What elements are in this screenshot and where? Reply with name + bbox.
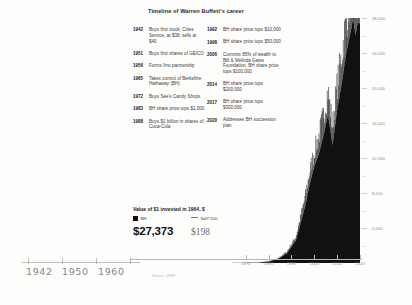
- timeline-year: 1972: [133, 94, 149, 100]
- y-tick-mark-minor: [362, 141, 365, 142]
- handwritten-tick: [62, 258, 63, 264]
- y-tick-mark-minor: [362, 176, 365, 177]
- timeline-year: 1998: [207, 39, 223, 45]
- legend-item-bh: BH: [133, 216, 191, 221]
- timeline-year: 1965: [133, 76, 149, 88]
- timeline-year: 2017: [207, 99, 223, 111]
- x-tick-mark: [337, 255, 338, 259]
- infographic-page: Timeline of Warren Buffett's career 1942…: [0, 0, 412, 305]
- timeline-entry: 1951 Buys first shares of GEICO: [133, 51, 205, 57]
- y-tick-mark-minor: [362, 246, 365, 247]
- x-tick-label: 2010: [332, 261, 342, 266]
- timeline-year: 1942: [133, 27, 149, 44]
- x-tick-mark: [291, 255, 292, 259]
- y-tick-mark: [362, 193, 367, 194]
- handwritten-tick: [96, 258, 97, 264]
- timeline-text: Forms first partnership: [149, 63, 194, 69]
- timeline-entry: 1965 Takes control of Berkshire Hathaway…: [133, 76, 205, 88]
- y-tick-label: 12,000: [372, 156, 385, 161]
- timeline-text: Buys first shares of GEICO: [149, 51, 204, 57]
- x-axis-line: [130, 259, 362, 260]
- timeline-year: 2020: [207, 117, 223, 129]
- timeline-entry: 1942 Buys first stock, Cities Service, a…: [133, 27, 205, 44]
- y-tick-label: 4,000: [372, 226, 382, 231]
- timeline-column-left: 1942 Buys first stock, Cities Service, a…: [133, 27, 205, 137]
- y-tick-mark-minor: [362, 71, 365, 72]
- y-tick-mark-minor: [362, 106, 365, 107]
- page-title: Timeline of Warren Buffett's career: [148, 8, 244, 14]
- timeline-year: 1956: [133, 63, 149, 69]
- handwritten-label-1960: 1960: [98, 266, 125, 277]
- timeline-text: Buys $1 billion in shares of Coca-Cola: [149, 119, 205, 131]
- y-tick-label: 24,000: [372, 51, 385, 56]
- handwritten-axis-line: [22, 262, 140, 263]
- handwritten-label-1942: 1942: [26, 266, 53, 277]
- y-tick-label: 16,000: [372, 121, 385, 126]
- x-tick-mark: [360, 255, 361, 259]
- x-tick-label: 1980: [264, 261, 274, 266]
- y-tick-label: 28,000: [372, 16, 385, 21]
- bh-series-area: [232, 18, 360, 263]
- x-tick-mark: [246, 255, 247, 259]
- square-swatch-icon: [133, 216, 138, 221]
- x-tick-label: 1990: [287, 261, 297, 266]
- timeline-text: Buys first stock, Cities Service, at $38…: [149, 27, 205, 44]
- legend-label: S&P 500: [201, 216, 218, 221]
- chart-svg: [232, 18, 360, 263]
- timeline-year: 1992: [207, 27, 223, 33]
- y-tick-mark: [362, 88, 367, 89]
- timeline-year: 1983: [133, 106, 149, 112]
- y-tick-mark: [362, 53, 367, 54]
- y-tick-label: 8,000: [372, 191, 382, 196]
- timeline-year: 2014: [207, 81, 223, 93]
- legend-item-sp500: S&P 500: [191, 216, 217, 221]
- bh-growth-area-chart: [232, 18, 360, 263]
- y-axis: 4,0008,00012,00016,00020,00024,00028,000: [362, 18, 410, 266]
- bh-value: $27,373: [133, 225, 191, 237]
- timeline-year: 2006: [207, 52, 223, 75]
- legend-label: BH: [141, 216, 147, 221]
- y-tick-label: 20,000: [372, 86, 385, 91]
- x-tick-label: 2000: [310, 261, 320, 266]
- timeline-year: 1988: [133, 119, 149, 131]
- y-tick-mark: [362, 228, 367, 229]
- x-tick-mark: [269, 255, 270, 259]
- timeline-year: 1951: [133, 51, 149, 57]
- timeline-entry: 1983 BH share price tops $1,000: [133, 106, 205, 112]
- x-tick-mark: [314, 255, 315, 259]
- y-tick-mark: [362, 123, 367, 124]
- timeline-entry: 1956 Forms first partnership: [133, 63, 205, 69]
- y-tick-mark: [362, 18, 367, 19]
- timeline-text: Takes control of Berkshire Hathaway (BH): [149, 76, 205, 88]
- handwritten-tick: [130, 258, 131, 264]
- x-tick-label: 1970: [241, 261, 251, 266]
- x-axis: 197019801990200020102020: [130, 255, 365, 275]
- handwritten-tick: [28, 258, 29, 264]
- handwritten-label-1950: 1950: [62, 266, 89, 277]
- timeline-text: Buys See's Candy Shops: [149, 94, 200, 100]
- timeline-text: BH share price tops $1,000: [149, 106, 204, 112]
- x-tick-label: 2020: [355, 261, 365, 266]
- timeline-entry: 1972 Buys See's Candy Shops: [133, 94, 205, 100]
- y-tick-mark-minor: [362, 211, 365, 212]
- sp500-value: $198: [191, 227, 210, 237]
- y-tick-mark: [362, 158, 367, 159]
- timeline-entry: 1988 Buys $1 billion in shares of Coca-C…: [133, 119, 205, 131]
- y-tick-mark-minor: [362, 36, 365, 37]
- line-swatch-icon: [191, 217, 198, 218]
- source-note: Source: CRSP: [152, 274, 175, 278]
